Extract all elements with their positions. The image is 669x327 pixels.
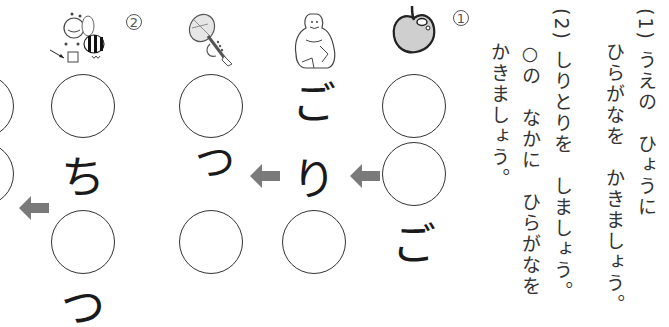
instruction-q2-line1: しりとりを しましょう。 — [552, 50, 571, 302]
puzzle-2-label: 2 — [126, 14, 142, 30]
instruction-q2-line3: かきましょう。 — [489, 42, 508, 189]
answer-circle[interactable] — [51, 74, 115, 138]
answer-circle[interactable] — [179, 210, 243, 274]
answer-circle[interactable] — [179, 74, 243, 138]
given-kana: ち — [51, 146, 115, 210]
answer-circle[interactable] — [282, 210, 346, 274]
answer-circle[interactable] — [382, 74, 446, 138]
given-kana: り — [282, 148, 346, 212]
bee-icon — [48, 10, 114, 66]
answer-circle[interactable] — [0, 142, 14, 206]
instruction-q2-line2: ○の なかに ひらがなを — [520, 42, 539, 297]
instruction-q1-number: (1) — [636, 8, 655, 41]
instruction-q1-line2: ひらがなを かきましょう。 — [604, 42, 623, 315]
gorilla-icon — [292, 10, 338, 70]
given-kana: つ — [51, 276, 115, 327]
answer-circle[interactable] — [0, 74, 14, 138]
left-arrow-icon — [250, 163, 280, 189]
apple-icon — [388, 4, 440, 56]
given-kana: ご — [382, 213, 446, 277]
given-kana: つ — [183, 130, 247, 194]
instruction-q2-number: (2) — [552, 8, 571, 41]
given-kana: ご — [282, 72, 346, 136]
answer-circle[interactable] — [51, 210, 115, 274]
puzzle-1-label: 1 — [453, 10, 469, 26]
left-arrow-icon — [19, 195, 49, 221]
left-arrow-icon — [350, 163, 380, 189]
instruction-q1-line1: うえの ひょうに — [636, 50, 655, 218]
trumpet-icon — [186, 10, 236, 68]
answer-circle[interactable] — [382, 142, 446, 206]
